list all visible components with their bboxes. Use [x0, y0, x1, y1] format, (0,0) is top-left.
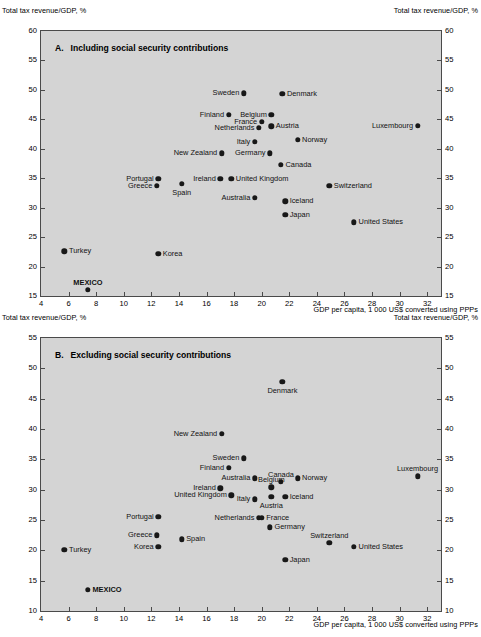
data-point-finland [226, 465, 231, 470]
data-point-ireland [218, 176, 223, 181]
panel-b-ytick-mark-l-20 [41, 550, 45, 551]
panel-a-y-axis-title-right: Total tax revenue/GDP, % [394, 6, 478, 15]
panel-b-ytick-label-l-15: 15 [29, 577, 37, 585]
panel-b-ytick-label-r-30: 30 [445, 486, 453, 494]
data-label-ireland: Ireland [193, 175, 216, 182]
panel-b-ytick-mark-r-20 [437, 550, 441, 551]
data-point-austria [269, 494, 274, 499]
panel-a-ytick-label-r-15: 15 [445, 292, 453, 300]
panel-a-xtick-mark-18 [234, 292, 235, 296]
panel-b-ytick-label-r-10: 10 [445, 607, 453, 615]
data-point-germany [267, 525, 272, 530]
data-label-greece: Greece [128, 182, 152, 189]
data-point-turkey [62, 547, 67, 552]
panel-b-ytick-label-l-10: 10 [29, 607, 37, 615]
panel-a-ytick-label-l-40: 40 [29, 145, 37, 153]
panel-b-xtick-mark-14 [179, 607, 180, 611]
panel-b-ytick-mark-l-30 [41, 490, 45, 491]
panel-b-ytick-mark-r-45 [437, 399, 441, 400]
data-point-france [259, 515, 264, 520]
panel-a-ytick-mark-l-40 [41, 149, 45, 150]
panel-a-ytick-label-r-25: 25 [445, 233, 453, 241]
panel-b-ytick-mark-l-35 [41, 459, 45, 460]
data-point-canada [278, 162, 283, 167]
panel-a-ytick-label-l-15: 15 [29, 292, 37, 300]
panel-b-ytick-label-l-40: 40 [29, 425, 37, 433]
data-point-belgium [269, 485, 274, 490]
data-point-switzerland [327, 540, 332, 545]
panel-a-xtick-mark-10 [124, 292, 125, 296]
data-point-germany [267, 151, 272, 156]
data-label-finland: Finland [200, 111, 224, 118]
data-label-switzerland: Switzerland [310, 532, 348, 539]
data-point-portugal [156, 176, 161, 181]
panel-b-ytick-mark-r-50 [437, 368, 441, 369]
data-label-united-states: United States [359, 219, 403, 226]
data-label-italy: Italy [237, 496, 251, 503]
data-label-germany: Germany [235, 150, 265, 157]
data-label-netherlands: Netherlands [215, 514, 255, 521]
panel-b-plot-area: B.Excluding social security contribution… [40, 337, 442, 612]
data-label-australia: Australia [222, 474, 251, 481]
panel-b-ytick-label-l-35: 35 [29, 455, 37, 463]
panel-b-xtick-mark-16 [207, 607, 208, 611]
data-label-spain: Spain [172, 189, 191, 196]
data-point-sweden [241, 455, 246, 460]
panel-b-ytick-mark-l-15 [41, 581, 45, 582]
panel-b-ytick-label-l-50: 50 [29, 364, 37, 372]
panel-a-xtick-label-10: 10 [120, 300, 128, 308]
data-point-switzerland [327, 183, 332, 188]
panel-b-ytick-mark-r-15 [437, 581, 441, 582]
panel-a-title-text: Including social security contributions [71, 43, 229, 53]
data-point-turkey [62, 249, 67, 254]
data-label-new-zealand: New Zealand [174, 430, 218, 437]
panel-b-ytick-label-r-35: 35 [445, 455, 453, 463]
data-label-sweden: Sweden [213, 90, 240, 97]
panel-a-xtick-label-12: 12 [147, 300, 155, 308]
panel-a-ytick-label-r-40: 40 [445, 145, 453, 153]
data-label-greece: Greece [128, 531, 152, 538]
data-point-iceland [282, 494, 287, 499]
panel-b-xtick-mark-22 [289, 607, 290, 611]
data-point-greece [154, 532, 159, 537]
panel-a-xtick-mark-12 [151, 292, 152, 296]
panel-b-xtick-label-8: 8 [94, 615, 98, 623]
panel-a-ytick-mark-r-55 [437, 60, 441, 61]
data-point-italy [252, 497, 257, 502]
panel-a-ytick-label-l-35: 35 [29, 174, 37, 182]
panel-a-xtick-mark-24 [317, 292, 318, 296]
panel-b-xtick-label-6: 6 [66, 615, 70, 623]
panel-a-ytick-label-r-55: 55 [445, 56, 453, 64]
panel-a-ytick-mark-l-55 [41, 60, 45, 61]
panel-a-ytick-label-l-55: 55 [29, 56, 37, 64]
panel-b-letter: B. [55, 350, 64, 360]
data-point-new-zealand [219, 431, 224, 436]
panel-b-xtick-mark-24 [317, 607, 318, 611]
panel-a-ytick-mark-l-25 [41, 237, 45, 238]
panel-a-xtick-mark-6 [69, 292, 70, 296]
panel-b-ytick-label-r-45: 45 [445, 395, 453, 403]
panel-a-ytick-mark-r-20 [437, 267, 441, 268]
data-label-united-kingdom: United Kingdom [236, 175, 289, 182]
panel-a-xtick-label-20: 20 [257, 300, 265, 308]
data-label-norway: Norway [302, 136, 327, 143]
panel-a-xtick-label-22: 22 [285, 300, 293, 308]
panel-b-xtick-label-4: 4 [39, 615, 43, 623]
panel-b-ytick-mark-r-30 [437, 490, 441, 491]
data-point-iceland [282, 198, 287, 203]
panel-a-xtick-mark-8 [96, 292, 97, 296]
data-label-austria: Austria [276, 123, 299, 130]
data-point-luxembourg [415, 123, 420, 128]
panel-a-xtick-label-8: 8 [94, 300, 98, 308]
panel-b-x-axis-title: GDP per capita, 1 000 US$ converted usin… [314, 620, 478, 629]
data-label-korea: Korea [163, 250, 183, 257]
data-point-netherlands [256, 125, 261, 130]
panel-a-ytick-mark-r-25 [437, 237, 441, 238]
panel-a-ytick-label-r-50: 50 [445, 86, 453, 94]
data-point-portugal [156, 514, 161, 519]
data-label-japan: Japan [290, 211, 310, 218]
panel-a-ytick-label-l-25: 25 [29, 233, 37, 241]
data-point-spain [179, 537, 184, 542]
panel-b-ytick-label-r-50: 50 [445, 364, 453, 372]
data-point-spain [179, 181, 184, 186]
